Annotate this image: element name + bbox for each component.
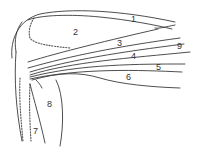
- label-4: 4: [131, 51, 136, 61]
- anatomy-diagram: 1 2 3 9 4 5 6 8 7: [0, 0, 210, 158]
- label-6: 6: [126, 72, 131, 82]
- label-9: 9: [177, 41, 182, 51]
- label-7: 7: [33, 126, 38, 136]
- muscle-8-right-line: [56, 80, 63, 146]
- label-1: 1: [131, 14, 136, 24]
- inner-contour-line: [15, 22, 22, 52]
- dotted-outline: [29, 18, 70, 48]
- muscle-8-left-line: [36, 80, 42, 88]
- arm-outer-line: [15, 52, 22, 141]
- dotted-vertical-2: [30, 84, 31, 141]
- label-8: 8: [47, 99, 52, 109]
- label-2: 2: [73, 27, 78, 37]
- label-5: 5: [156, 62, 161, 72]
- label-3: 3: [117, 38, 122, 48]
- muscle-6-line: [32, 74, 180, 88]
